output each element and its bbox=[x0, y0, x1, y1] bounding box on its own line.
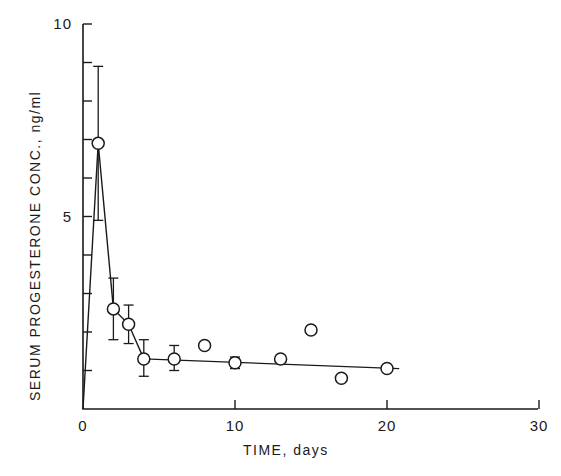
error-bars bbox=[93, 66, 240, 376]
x-tick-label: 30 bbox=[530, 417, 549, 434]
data-points bbox=[92, 137, 393, 384]
progesterone-chart: 5100102030 TIME, days SERUM PROGESTERONE… bbox=[0, 0, 561, 476]
data-point-circle bbox=[123, 318, 135, 330]
axes bbox=[83, 24, 538, 409]
axis-ticks bbox=[83, 24, 539, 409]
y-axis-label: SERUM PROGESTERONE CONC., ng/ml bbox=[27, 91, 43, 401]
data-point-circle bbox=[335, 372, 347, 384]
data-point-circle bbox=[107, 303, 119, 315]
data-point-circle bbox=[138, 353, 150, 365]
data-point-circle bbox=[381, 363, 393, 375]
data-point-circle bbox=[199, 339, 211, 351]
fit-line bbox=[144, 359, 399, 369]
data-point-circle bbox=[168, 353, 180, 365]
connecting-line bbox=[83, 143, 144, 409]
tick-labels: 5100102030 bbox=[53, 15, 548, 434]
x-axis-label: TIME, days bbox=[243, 442, 329, 458]
x-tick-label: 10 bbox=[226, 417, 245, 434]
y-tick-label: 5 bbox=[63, 208, 72, 225]
x-tick-label: 0 bbox=[78, 417, 87, 434]
x-tick-label: 20 bbox=[378, 417, 397, 434]
axis-lines bbox=[83, 24, 538, 409]
y-tick-label: 10 bbox=[53, 15, 72, 32]
data-point-circle bbox=[92, 137, 104, 149]
data-point-circle bbox=[229, 357, 241, 369]
data-point-circle bbox=[275, 353, 287, 365]
data-point-circle bbox=[305, 324, 317, 336]
